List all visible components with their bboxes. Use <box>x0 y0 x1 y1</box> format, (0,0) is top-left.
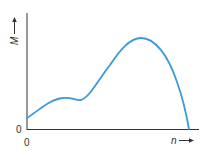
x-axis-label: n <box>171 135 194 146</box>
torque-speed-chart: M n 0 0 <box>0 0 209 154</box>
y-origin-label: 0 <box>16 124 22 135</box>
x-axis-arrow-icon <box>189 138 194 143</box>
chart-svg: M n 0 0 <box>0 0 209 154</box>
x-axis-label-text: n <box>171 135 177 146</box>
y-axis-label-text: M <box>9 36 20 45</box>
torque-curve <box>27 38 189 129</box>
y-axis-arrow-icon <box>12 17 17 22</box>
y-axis-label: M <box>9 17 20 45</box>
x-origin-label: 0 <box>24 137 30 148</box>
